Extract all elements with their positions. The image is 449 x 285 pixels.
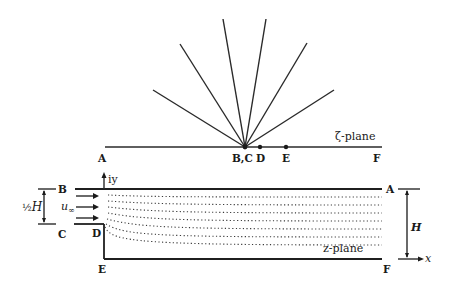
zeta-label-bc: B,C	[232, 152, 253, 164]
zeta-plane-title: ζ-plane	[335, 130, 375, 143]
z-label-d: D	[92, 227, 101, 239]
streamlines	[105, 195, 382, 245]
x-axis-label: x	[425, 252, 432, 265]
z-label-b: B	[58, 183, 67, 195]
zeta-label-e: E	[282, 152, 290, 164]
inflow-velocity-label: u∞	[61, 200, 75, 215]
z-label-e: E	[98, 263, 106, 275]
zeta-point-d	[258, 145, 262, 149]
iy-axis-label: iy	[108, 173, 119, 186]
z-plane-title: z-plane	[323, 242, 363, 255]
iy-arrowhead-icon	[102, 172, 107, 178]
zeta-label-f: F	[373, 152, 381, 164]
zeta-label-d: D	[256, 152, 265, 164]
z-label-c: C	[58, 228, 66, 240]
zeta-point-e	[284, 145, 288, 149]
inflow-arrows	[76, 193, 99, 221]
zeta-plane: A B,C D E F ζ-plane	[97, 19, 382, 164]
zeta-point-bc	[243, 145, 248, 150]
z-plane: iy u∞ ½H	[22, 172, 432, 275]
z-label-f: F	[383, 263, 391, 275]
zeta-label-a: A	[97, 152, 107, 164]
z-label-a: A	[385, 183, 395, 195]
half-h-label: ½H	[22, 200, 43, 214]
h-label: H	[410, 221, 422, 234]
zeta-rays	[153, 19, 334, 147]
x-arrowhead-icon	[418, 257, 424, 262]
conformal-mapping-diagram: A B,C D E F ζ-plane iy u∞	[0, 0, 449, 285]
